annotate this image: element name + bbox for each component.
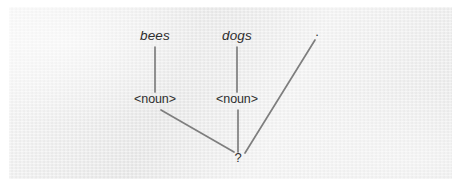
node-tag-noun-left: <noun> — [134, 92, 176, 106]
tree-nodes: bees dogs . <noun> <noun> ? — [134, 24, 319, 165]
node-word-bees: bees — [140, 28, 170, 43]
node-tag-noun-right: <noun> — [216, 92, 258, 106]
figure-root: bees dogs . <noun> <noun> ? — [0, 0, 469, 193]
node-root-unknown: ? — [234, 150, 241, 165]
parse-tree-diagram: bees dogs . <noun> <noun> ? — [0, 0, 469, 193]
edge-left-noun-to-root — [161, 110, 234, 152]
node-word-dogs: dogs — [222, 28, 252, 43]
node-punctuation-period: . — [315, 24, 319, 39]
